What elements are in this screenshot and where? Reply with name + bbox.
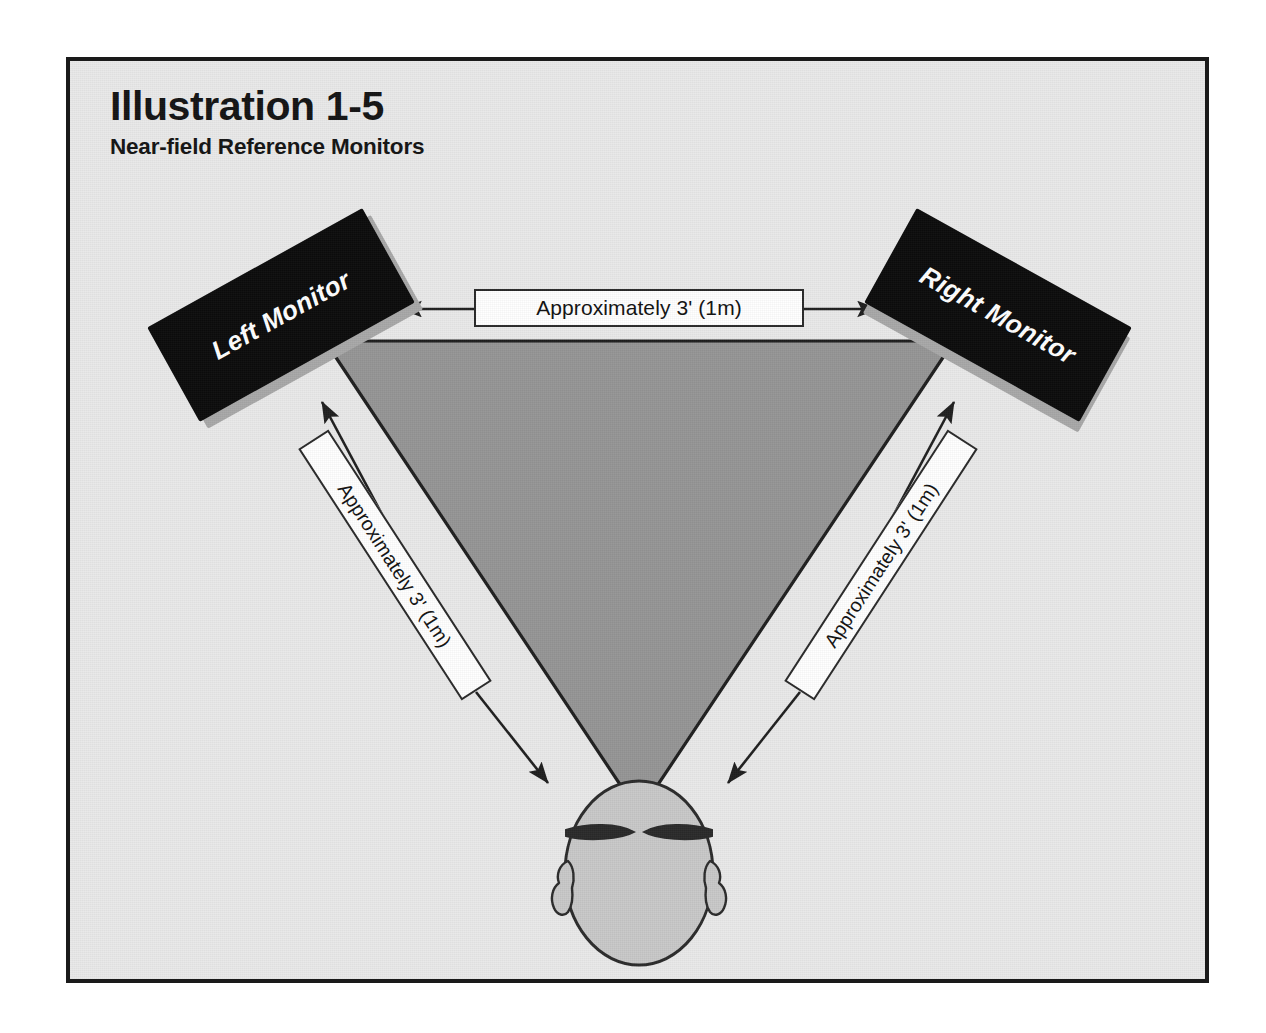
figure-frame: Left Monitor Right Monitor Approximately… — [66, 57, 1209, 983]
dim-arrow-left-down — [476, 692, 548, 783]
right-ear-icon — [704, 861, 726, 915]
dimension-label-top: Approximately 3' (1m) — [474, 289, 804, 327]
dimension-label-top-text: Approximately 3' (1m) — [536, 296, 742, 320]
title-block: Illustration 1-5 Near-field Reference Mo… — [110, 85, 424, 158]
page-root: Left Monitor Right Monitor Approximately… — [0, 0, 1266, 1033]
listener-head — [552, 781, 726, 965]
diagram-canvas — [70, 61, 1205, 979]
left-ear-icon — [552, 861, 574, 915]
page-subtitle: Near-field Reference Monitors — [110, 135, 424, 159]
dim-arrow-right-down — [728, 692, 800, 783]
head-outline — [565, 781, 713, 965]
page-title: Illustration 1-5 — [110, 85, 424, 128]
